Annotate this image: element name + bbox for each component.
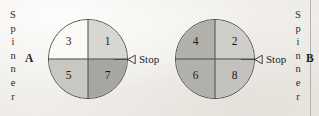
- sector-value: 1: [105, 36, 111, 48]
- sector-value: 5: [66, 70, 72, 82]
- sector-value: 7: [105, 70, 111, 82]
- vertical-letter: i: [6, 35, 20, 49]
- spinner-b-letter: B: [306, 52, 314, 64]
- sector-value: 3: [66, 36, 72, 48]
- vertical-letter: e: [6, 76, 20, 90]
- spinner-a-sector-lower-left[interactable]: 5: [49, 59, 88, 98]
- spinner-b-stop-marker: Stop: [241, 52, 286, 66]
- vertical-letter: n: [291, 62, 305, 76]
- spinner-a-stop-marker: Stop: [114, 52, 159, 66]
- vertical-letter: p: [6, 22, 20, 36]
- vertical-letter: r: [291, 90, 305, 104]
- spinner-a-vertical-label: S p i n n e r: [6, 8, 20, 103]
- vertical-letter: n: [6, 62, 20, 76]
- spinner-a-sector-upper-left[interactable]: 3: [49, 20, 88, 59]
- spinner-b-vertical-label: S p i n n e r: [291, 8, 305, 103]
- sector-value: 6: [193, 70, 199, 82]
- vertical-letter: n: [291, 49, 305, 63]
- sector-value: 2: [232, 36, 238, 48]
- sector-value: 4: [193, 36, 199, 48]
- stop-stem: [241, 59, 255, 60]
- stop-stem: [114, 59, 128, 60]
- vertical-letter: i: [291, 35, 305, 49]
- vertical-letter: e: [291, 76, 305, 90]
- left-triangle-outline-icon: [254, 54, 263, 65]
- vertical-letter: S: [291, 8, 305, 22]
- spinner-a-letter: A: [25, 52, 33, 64]
- spinner-b-sector-lower-left[interactable]: 6: [176, 59, 215, 98]
- stop-label: Stop: [139, 53, 159, 65]
- vertical-letter: n: [6, 49, 20, 63]
- sector-value: 8: [232, 70, 238, 82]
- left-triangle-outline-icon: [127, 54, 136, 65]
- stop-label: Stop: [266, 53, 286, 65]
- vertical-letter: p: [291, 22, 305, 36]
- spinner-figure: S p i n n e r A 3 1 5 7 Stop 4: [0, 0, 319, 116]
- vertical-letter: r: [6, 90, 20, 104]
- vertical-letter: S: [6, 8, 20, 22]
- spinner-b-sector-upper-left[interactable]: 4: [176, 20, 215, 59]
